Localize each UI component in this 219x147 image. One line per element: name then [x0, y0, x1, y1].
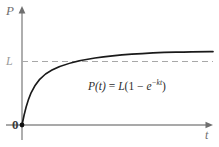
- origin-label: 0: [12, 118, 19, 131]
- equation-exponent: −kt: [152, 78, 162, 87]
- origin-point-marker: [20, 123, 25, 128]
- x-axis-label: t: [205, 129, 208, 141]
- y-axis-arrowhead: [19, 6, 26, 14]
- plot-canvas: [0, 0, 219, 147]
- equation-lhs: P(t): [88, 80, 106, 92]
- asymptote-label: L: [6, 55, 13, 67]
- equation-close-paren: ): [162, 80, 166, 92]
- curve-equation-label: P(t) = L(1 − e−kt): [88, 80, 166, 93]
- exponential-growth-figure: P t L 0 P(t) = L(1 − e−kt): [0, 0, 219, 147]
- y-axis-label: P: [6, 4, 14, 17]
